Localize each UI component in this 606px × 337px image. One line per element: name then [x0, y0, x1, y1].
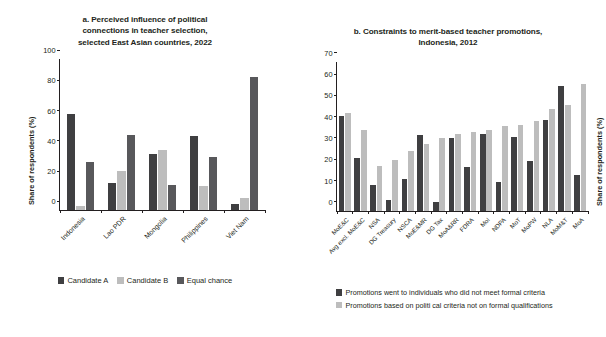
legend-item: Promotions went to individuals who did n… — [336, 288, 606, 297]
bar — [76, 206, 84, 211]
bar — [158, 150, 166, 210]
bar — [392, 160, 398, 211]
bar-group — [447, 62, 463, 211]
bar — [464, 167, 470, 211]
bar — [86, 162, 94, 210]
bar — [574, 175, 580, 211]
x-axis-tick-label: NDPA — [490, 216, 507, 233]
bar — [527, 161, 533, 211]
bar-group — [463, 62, 479, 211]
chart-b-y-axis-label: Share of respondents (%) — [595, 117, 604, 205]
bar-group — [478, 62, 494, 211]
x-axis-tick-label: MoI — [479, 216, 491, 228]
bar — [417, 135, 423, 211]
y-axis-tick: 80 — [47, 76, 60, 85]
chart-a-plot-area: Share of respondents (%) IndonesiaLao PD… — [0, 55, 290, 230]
x-axis-tick-label: Indonesia — [59, 215, 85, 241]
legend-label: Equal chance — [187, 276, 232, 285]
bar-group — [572, 62, 588, 211]
y-axis-tick: 20 — [47, 167, 60, 176]
bar — [127, 135, 135, 211]
x-axis-tick-label: Viet Nam — [224, 215, 249, 240]
bar — [471, 132, 477, 211]
bar-group — [142, 59, 183, 210]
legend-swatch — [117, 277, 123, 283]
legend-label: Candidate A — [67, 276, 108, 285]
bar — [168, 185, 176, 211]
bar — [209, 157, 217, 210]
chart-a-bar-groups — [60, 59, 265, 210]
bar-group — [337, 62, 353, 211]
y-axis-tick: 100 — [43, 46, 60, 55]
chart-a-axes: IndonesiaLao PDRMongoliaPhilippinesViet … — [59, 59, 265, 211]
bar — [534, 121, 540, 210]
y-axis-tick: 0 — [328, 197, 337, 206]
bar — [199, 186, 207, 210]
bar-group — [353, 62, 369, 211]
bar — [424, 144, 430, 211]
y-axis-tick: 40 — [324, 112, 337, 121]
chart-panel-a: a. Perceived influence of political conn… — [0, 0, 290, 337]
figure-container: a. Perceived influence of political conn… — [0, 0, 606, 337]
bar — [511, 137, 517, 210]
y-axis-tick: 50 — [324, 91, 337, 100]
legend-label: Promotions based on politi cal criteria … — [346, 301, 553, 310]
bar — [496, 182, 502, 211]
legend-label: Promotions went to individuals who did n… — [346, 288, 545, 297]
bar — [108, 183, 116, 210]
bar — [354, 158, 360, 211]
bar-group — [557, 62, 573, 211]
legend-swatch — [58, 277, 64, 283]
x-axis-tick-label: MoA — [571, 216, 585, 230]
chart-a-y-axis-label: Share of respondents (%) — [27, 117, 36, 205]
bar — [502, 126, 508, 211]
bar-group — [101, 59, 142, 210]
x-axis-tick-label: Lao PDR — [101, 215, 126, 240]
bar — [480, 134, 486, 211]
bar — [386, 200, 392, 211]
bar — [361, 130, 367, 211]
bar-group — [183, 59, 224, 210]
bar-group — [400, 62, 416, 211]
chart-b-legend: Promotions went to individuals who did n… — [290, 288, 606, 313]
chart-panel-b: b. Constraints to merit-based teacher pr… — [290, 0, 606, 337]
bar-group — [415, 62, 431, 211]
bar — [345, 113, 351, 211]
bar — [433, 202, 439, 211]
chart-a-legend: Candidate ACandidate BEqual chance — [0, 276, 290, 285]
legend-item: Candidate A — [58, 276, 108, 285]
bar — [250, 77, 258, 210]
bar — [67, 114, 75, 211]
bar — [190, 136, 198, 210]
y-axis-tick: 20 — [324, 155, 337, 164]
bar-group — [384, 62, 400, 211]
bar — [408, 151, 414, 211]
y-axis-tick: 60 — [47, 106, 60, 115]
bar — [402, 179, 408, 211]
legend-swatch — [177, 277, 183, 283]
bar — [565, 105, 571, 210]
chart-a-title: a. Perceived influence of political conn… — [0, 0, 290, 48]
y-axis-tick: 10 — [324, 176, 337, 185]
legend-swatch — [336, 289, 342, 295]
bar — [455, 134, 461, 211]
bar — [549, 109, 555, 211]
y-axis-tick: 70 — [324, 48, 337, 57]
chart-b-bar-groups — [337, 62, 588, 211]
x-axis-tick-label: MoPW — [520, 216, 538, 234]
bar-group — [510, 62, 526, 211]
legend-swatch — [336, 302, 342, 308]
bar — [231, 204, 239, 210]
bar-group — [541, 62, 557, 211]
bar — [581, 84, 587, 211]
bar-group — [494, 62, 510, 211]
bar — [518, 125, 524, 211]
bar — [543, 120, 549, 210]
bar-group — [368, 62, 384, 211]
x-axis-tick-label: Philippines — [180, 215, 209, 244]
bar — [117, 171, 125, 210]
y-axis-tick: 0 — [51, 197, 60, 206]
legend-label: Candidate B — [127, 276, 168, 285]
y-axis-tick: 30 — [324, 133, 337, 142]
bar-group — [525, 62, 541, 211]
